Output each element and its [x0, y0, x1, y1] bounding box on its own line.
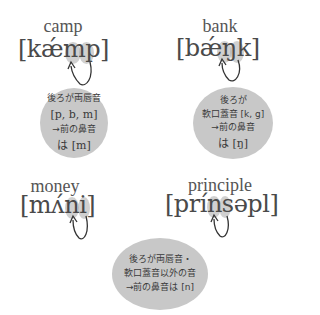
rule-line: →前の鼻音	[52, 123, 96, 137]
word-label: bank	[190, 17, 250, 35]
rule-line: [p, b, m]	[50, 106, 97, 123]
word-label: camp	[33, 17, 93, 35]
rule-line: →前の鼻音	[211, 121, 255, 135]
assimilation-arrow-icon	[218, 56, 248, 86]
rule-line: は [m]	[57, 137, 91, 154]
rule-bubble: 後ろが両唇音 [p, b, m] →前の鼻音 は [m]	[40, 88, 108, 158]
rule-line: →前の鼻音は [n]	[126, 281, 194, 295]
rule-bubble: 後ろが 軟口蓋音 [k, g] →前の鼻音 は [ŋ]	[193, 87, 273, 159]
rule-bubble: 後ろが両唇音・ 軟口蓋音以外の音 →前の鼻音は [n]	[112, 238, 208, 310]
rule-line: 軟口蓋音 [k, g]	[202, 108, 265, 122]
assimilation-arrow-icon	[68, 212, 92, 244]
rule-line: 後ろが	[220, 94, 247, 108]
assimilation-arrow-icon	[68, 58, 98, 90]
rule-line: 後ろが両唇音	[47, 92, 101, 106]
assimilation-arrow-icon	[210, 212, 234, 242]
rule-line: 軟口蓋音以外の音	[124, 267, 196, 281]
rule-line: は [ŋ]	[218, 135, 248, 152]
rule-line: 後ろが両唇音・	[129, 253, 192, 267]
